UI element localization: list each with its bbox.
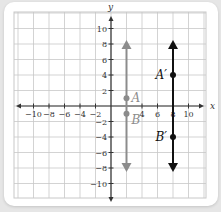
original-line-down-arrow-icon [122, 163, 132, 172]
y-tick-label: −10 [90, 180, 107, 189]
y-tick-label: 4 [102, 71, 107, 80]
y-tick-label: 10 [97, 25, 107, 34]
y-tick-label: −4 [95, 133, 107, 142]
image-line-up-arrow-icon [168, 40, 178, 49]
x-tick-label: −8 [43, 110, 55, 119]
y-axis-down-arrow-icon [109, 197, 114, 202]
image-line-down-arrow-icon [168, 163, 178, 172]
point-label: B [131, 113, 141, 127]
x-tick-label: 6 [155, 110, 160, 119]
y-tick-label: 8 [102, 40, 107, 49]
x-tick-label: −4 [74, 110, 86, 119]
y-tick-label: −6 [95, 149, 107, 158]
original-line-up-arrow-icon [122, 40, 132, 49]
coordinate-plane: xy−10−8−6−4−246810108642−2−4−6−8−10ABA′B… [0, 0, 220, 212]
point-B-prime [170, 134, 176, 140]
x-axis-right-arrow-icon [199, 104, 204, 109]
point-B [124, 111, 130, 117]
x-tick-label: 10 [183, 110, 193, 119]
point-A-prime [170, 72, 176, 78]
x-tick-label: −10 [25, 110, 42, 119]
grid-border [14, 12, 206, 198]
x-axis-left-arrow-icon [16, 104, 21, 109]
y-tick-label: −2 [95, 118, 107, 127]
x-tick-label: −6 [59, 110, 71, 119]
point-label: B′ [154, 130, 167, 144]
x-axis-label: x [210, 101, 215, 111]
y-tick-label: −8 [95, 164, 107, 173]
y-tick-label: 2 [102, 87, 107, 96]
point-label: A′ [155, 68, 168, 82]
point-A [124, 95, 130, 101]
point-label: A [131, 91, 141, 105]
y-axis-up-arrow-icon [109, 16, 114, 21]
y-axis-label: y [107, 2, 114, 12]
y-tick-label: 6 [102, 56, 107, 65]
